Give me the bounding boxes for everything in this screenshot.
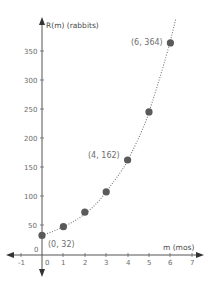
data-point: [81, 209, 88, 216]
y-axis-up-arrow-icon: [39, 17, 45, 25]
exponential-fit-curve: [42, 18, 176, 235]
y-tick-label: 200: [24, 135, 37, 143]
y-tick-label: 50: [28, 222, 37, 230]
y-tick-label: 300: [24, 77, 37, 85]
x-tick-label: 2: [83, 259, 87, 267]
y-tick-label: 350: [24, 48, 37, 56]
y-tick-label: 0: [34, 246, 38, 254]
point-annotation: (6, 364): [131, 38, 163, 47]
point-annotation: (0, 32): [48, 240, 75, 249]
data-point: [38, 232, 45, 239]
y-tick-label: 250: [24, 106, 37, 114]
data-points: [38, 39, 174, 239]
x-tick-label: 5: [147, 259, 151, 267]
x-tick-label: 4: [126, 259, 131, 267]
data-point: [103, 188, 110, 195]
data-point: [124, 156, 131, 163]
x-axis-left-arrow-icon: [6, 252, 14, 258]
x-tick-label: 1: [61, 259, 65, 267]
data-point: [145, 108, 152, 115]
x-tick-label: 3: [104, 259, 108, 267]
exponential-growth-chart: -1 0 1 2 3 4 5 6 7 0 50 100 150 200 250 …: [0, 0, 212, 285]
x-tick-label: -1: [18, 259, 25, 267]
x-tick-label: 0: [45, 259, 49, 267]
y-axis-label: R(m) (rabbits): [46, 21, 99, 30]
y-axis-down-arrow-icon: [39, 269, 45, 277]
x-axis-label: m (mos): [163, 243, 194, 252]
data-point: [60, 223, 67, 230]
point-annotation: (4, 162): [88, 151, 120, 160]
exponential-fit-curve: [42, 53, 149, 236]
y-tick-label: 150: [24, 164, 37, 172]
axes: [6, 17, 204, 277]
x-tick-labels: -1 0 1 2 3 4 5 6 7: [18, 259, 194, 267]
x-tick-label: 7: [190, 259, 194, 267]
x-tick-label: 6: [168, 259, 173, 267]
x-axis-right-arrow-icon: [196, 252, 204, 258]
y-tick-labels: 0 50 100 150 200 250 300 350: [24, 48, 38, 255]
y-tick-label: 100: [24, 193, 37, 201]
data-point: [167, 39, 174, 46]
